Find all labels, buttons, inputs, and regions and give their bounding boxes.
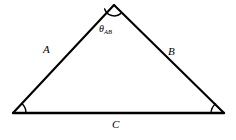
angle-label-apex: θAB <box>99 24 112 35</box>
side-label-b: B <box>168 46 175 57</box>
angle-arc-bottom-left-icon <box>22 104 26 114</box>
angle-label-apex-subscript: AB <box>104 28 112 35</box>
triangle-side-b <box>114 5 224 113</box>
angle-arc-bottom-right-icon <box>211 104 216 113</box>
side-label-c: C <box>112 119 119 130</box>
triangle-diagram: A B C θAB <box>0 0 236 140</box>
side-label-a: A <box>43 44 50 55</box>
triangle-side-a <box>13 5 114 113</box>
